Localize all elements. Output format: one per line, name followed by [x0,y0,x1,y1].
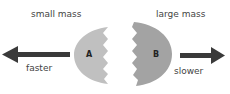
piece-b-shape [132,22,172,86]
small-mass-label: small mass [31,9,82,19]
arrow-left-icon [2,46,70,63]
faster-label: faster [26,63,52,73]
arrow-right-icon [180,47,225,64]
slower-label: slower [174,66,203,76]
piece-b-label: B [153,50,159,59]
piece-a-label: A [86,50,92,59]
large-mass-label: large mass [156,9,205,19]
